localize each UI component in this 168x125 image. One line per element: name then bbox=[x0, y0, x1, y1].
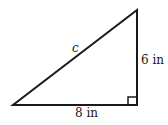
triangle-diagram: c 6 in 8 in bbox=[0, 0, 168, 125]
horizontal-leg-label: 8 in bbox=[75, 106, 98, 120]
right-triangle bbox=[13, 10, 137, 105]
right-angle-marker bbox=[128, 97, 137, 105]
hypotenuse-label: c bbox=[72, 41, 79, 55]
vertical-leg-label: 6 in bbox=[141, 53, 164, 67]
